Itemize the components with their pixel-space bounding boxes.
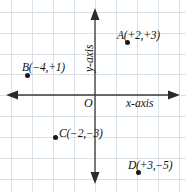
y-axis-arrow-up-icon <box>91 8 100 20</box>
coordinate-plane-figure: O x-axis y-axis A(+2,+3)B(−4,+1)C(−2,−3)… <box>0 0 186 192</box>
origin-label: O <box>84 97 93 109</box>
plotted-point-c <box>53 135 58 140</box>
y-axis-label: y-axis <box>84 45 96 72</box>
point-label-b: B(−4,+1) <box>22 62 65 74</box>
point-label-d: D(+3,−5) <box>128 160 172 172</box>
x-axis-label: x-axis <box>126 98 153 110</box>
point-label-c: C(−2,−3) <box>59 128 103 140</box>
y-axis-arrow-down-icon <box>91 172 100 184</box>
x-axis-arrow-right-icon <box>168 91 180 100</box>
x-axis-arrow-left-icon <box>6 91 18 100</box>
point-label-a: A(+2,+3) <box>117 30 160 42</box>
